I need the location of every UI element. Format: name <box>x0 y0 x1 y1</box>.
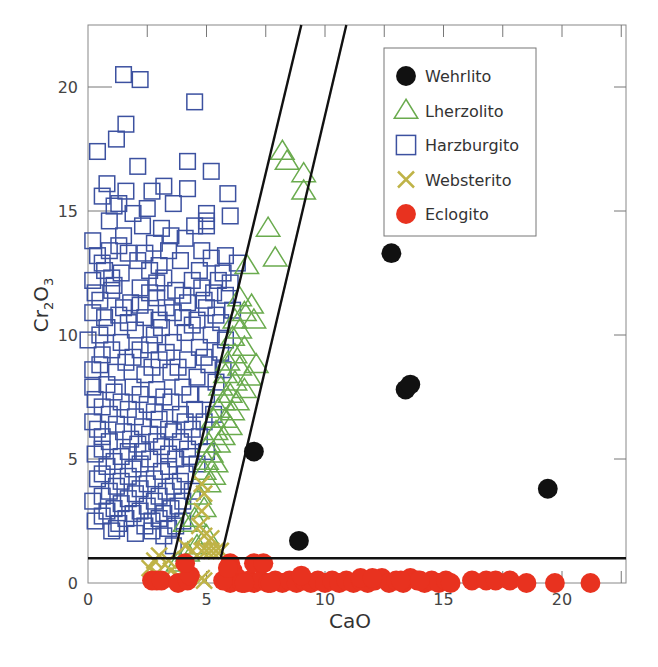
y-title-sub1: 2 <box>41 302 56 310</box>
x-tick-labels: 05101520 <box>83 590 572 609</box>
y-axis-title: Cr2O3 <box>29 278 56 333</box>
y-tick-label: 0 <box>68 574 78 593</box>
y-title-o: O <box>29 286 53 302</box>
y-title-sub2: 3 <box>41 278 56 286</box>
legend-item-wehrlito: Wehrlito <box>396 66 491 86</box>
legend-label: Lherzolito <box>425 102 504 121</box>
x-tick-label: 0 <box>83 590 93 609</box>
legend: WehrlitoLherzolitoHarzburgitoWebsteritoE… <box>384 48 536 236</box>
y-tick-label: 15 <box>58 202 78 221</box>
legend-label: Eclogito <box>425 205 489 224</box>
y-tick-label: 10 <box>58 326 78 345</box>
y-tick-label: 5 <box>68 450 78 469</box>
legend-label: Harzburgito <box>425 136 519 155</box>
y-tick-label: 20 <box>58 78 78 97</box>
legend-item-eclogito: Eclogito <box>396 204 489 224</box>
legend-label: Websterito <box>425 171 511 190</box>
svg-text:Cr2O3: Cr2O3 <box>29 278 56 333</box>
scatter-chart: 05101520 05101520 WehrlitoLherzolitoHarz… <box>0 0 658 667</box>
y-tick-labels: 05101520 <box>58 78 78 593</box>
x-tick-label: 5 <box>201 590 211 609</box>
legend-label: Wehrlito <box>425 67 491 86</box>
x-axis-title: CaO <box>329 609 371 633</box>
y-title-cr: Cr <box>29 309 53 332</box>
